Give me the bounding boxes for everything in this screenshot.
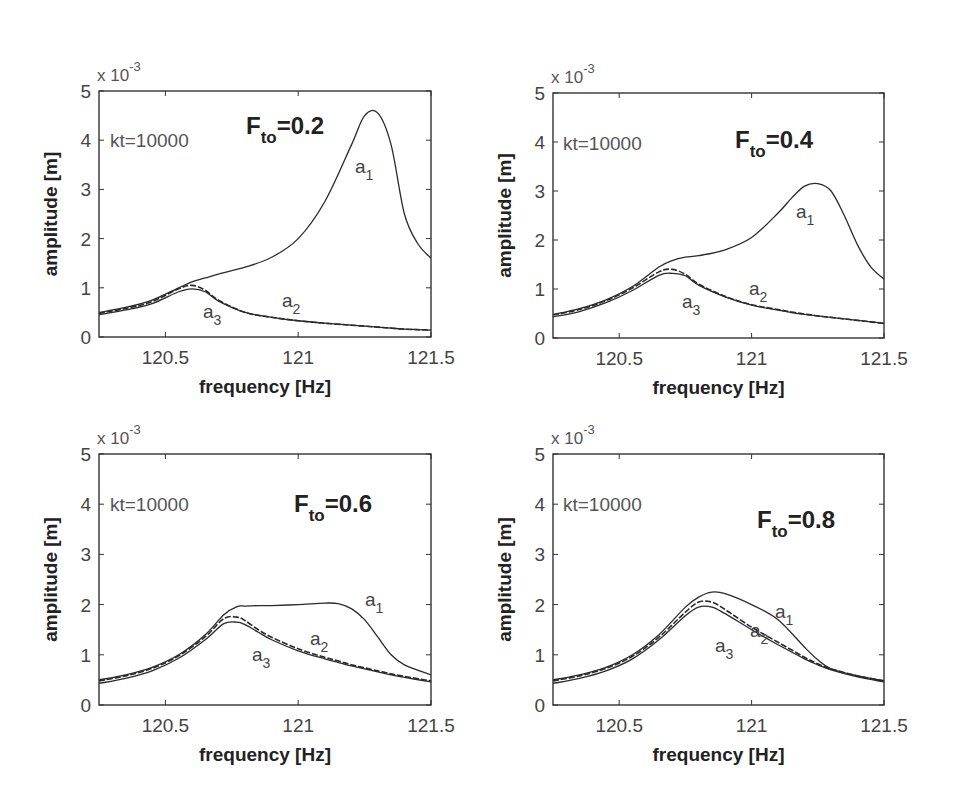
y-tick-label: 0 <box>80 327 91 348</box>
y-tick-label: 5 <box>80 81 91 102</box>
curve-label-a3: a3 <box>203 301 222 328</box>
x-axis-title: frequency [Hz] <box>199 376 331 397</box>
subplot-p3: 012345120.5121121.5x 10-3frequency [Hz]a… <box>40 422 455 765</box>
x-tick-label: 120.5 <box>595 348 643 369</box>
kt-annotation: kt=10000 <box>563 133 642 154</box>
curve-a3 <box>99 622 431 684</box>
force-label: Fto=0.8 <box>757 506 835 541</box>
curve-label-a2: a2 <box>282 290 301 317</box>
x-tick-label: 120.5 <box>595 715 643 736</box>
x-tick-label: 121.5 <box>860 715 908 736</box>
force-label: Fto=0.4 <box>735 126 814 161</box>
y-scale-exponent: x 10-3 <box>551 422 595 448</box>
curve-label-a2: a2 <box>749 278 768 305</box>
curve-a3 <box>553 273 884 323</box>
y-tick-label: 0 <box>534 695 545 716</box>
kt-annotation: kt=10000 <box>110 494 189 515</box>
curve-label-a2: a2 <box>750 620 769 647</box>
y-tick-label: 2 <box>534 230 545 251</box>
y-tick-label: 2 <box>534 595 545 616</box>
y-scale-exponent: x 10-3 <box>97 59 141 85</box>
curve-label-a2: a2 <box>310 628 329 655</box>
curve-label-a3: a3 <box>715 635 734 662</box>
y-tick-label: 3 <box>534 181 545 202</box>
y-axis-title: amplitude [m] <box>494 153 515 278</box>
subplot-p4: 012345120.5121121.5x 10-3frequency [Hz]a… <box>494 422 908 765</box>
y-tick-label: 5 <box>534 444 545 465</box>
y-tick-label: 3 <box>80 179 91 200</box>
axes-frame <box>553 454 884 705</box>
y-tick-label: 2 <box>80 229 91 250</box>
x-tick-label: 120.5 <box>142 715 190 736</box>
y-tick-label: 0 <box>534 328 545 349</box>
x-tick-label: 121.5 <box>407 347 455 368</box>
subplot-p2: 012345120.5121121.5x 10-3frequency [Hz]a… <box>494 61 908 398</box>
curve-label-a1: a1 <box>365 589 384 616</box>
x-tick-label: 120.5 <box>142 347 190 368</box>
x-tick-label: 121 <box>282 715 314 736</box>
y-tick-label: 5 <box>534 83 545 104</box>
curve-label-a1: a1 <box>355 156 374 183</box>
y-tick-label: 3 <box>534 544 545 565</box>
curve-label-a1: a1 <box>775 601 794 628</box>
x-tick-label: 121 <box>736 348 768 369</box>
y-tick-label: 1 <box>534 645 545 666</box>
curve-a2 <box>99 617 431 681</box>
subplot-p1: 012345120.5121121.5x 10-3frequency [Hz]a… <box>40 59 455 397</box>
y-axis-title: amplitude [m] <box>40 517 61 642</box>
x-tick-label: 121 <box>736 715 768 736</box>
y-tick-label: 4 <box>534 132 545 153</box>
x-axis-title: frequency [Hz] <box>653 744 785 765</box>
x-tick-label: 121 <box>282 347 314 368</box>
curve-label-a3: a3 <box>682 291 701 318</box>
curve-a2 <box>99 285 431 330</box>
y-axis-title: amplitude [m] <box>40 152 61 277</box>
y-tick-label: 4 <box>80 494 91 515</box>
y-tick-label: 1 <box>534 279 545 300</box>
x-tick-label: 121.5 <box>407 715 455 736</box>
x-tick-label: 121.5 <box>860 348 908 369</box>
y-tick-label: 2 <box>80 595 91 616</box>
x-axis-title: frequency [Hz] <box>653 377 785 398</box>
kt-annotation: kt=10000 <box>563 494 642 515</box>
y-tick-label: 1 <box>80 645 91 666</box>
force-label: Fto=0.2 <box>246 112 324 147</box>
curve-label-a3: a3 <box>252 644 271 671</box>
y-axis-title: amplitude [m] <box>494 517 515 642</box>
curve-label-a1: a1 <box>796 201 815 228</box>
y-tick-label: 3 <box>80 544 91 565</box>
y-tick-label: 4 <box>534 494 545 515</box>
force-label: Fto=0.6 <box>294 490 372 525</box>
y-tick-label: 5 <box>80 444 91 465</box>
curve-a3 <box>99 289 431 330</box>
y-scale-exponent: x 10-3 <box>97 422 141 448</box>
figure: 012345120.5121121.5x 10-3frequency [Hz]a… <box>0 0 953 811</box>
y-tick-label: 1 <box>80 278 91 299</box>
kt-annotation: kt=10000 <box>110 130 189 151</box>
y-tick-label: 4 <box>80 130 91 151</box>
y-tick-label: 0 <box>80 695 91 716</box>
x-axis-title: frequency [Hz] <box>199 744 331 765</box>
y-scale-exponent: x 10-3 <box>551 61 595 87</box>
curve-a2 <box>553 269 884 323</box>
